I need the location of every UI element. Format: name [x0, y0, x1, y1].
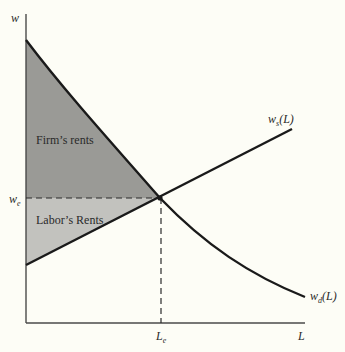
labor-rents-label: Labor’s Rents: [36, 213, 104, 227]
firm-rents-label: Firm’s rents: [36, 133, 94, 147]
x-axis-label: L: [297, 329, 305, 343]
equilibrium-point: [157, 195, 162, 200]
supply-curve-label: ws(L): [268, 112, 294, 128]
y-axis-label: w: [11, 11, 19, 25]
equilibrium-labor-label: Le: [155, 329, 167, 345]
demand-curve-label: wd(L): [310, 289, 337, 305]
equilibrium-wage-label: we: [9, 192, 21, 208]
rents-diagram: w we Firm’s rents Labor’s Rents ws(L) wd…: [0, 0, 345, 352]
